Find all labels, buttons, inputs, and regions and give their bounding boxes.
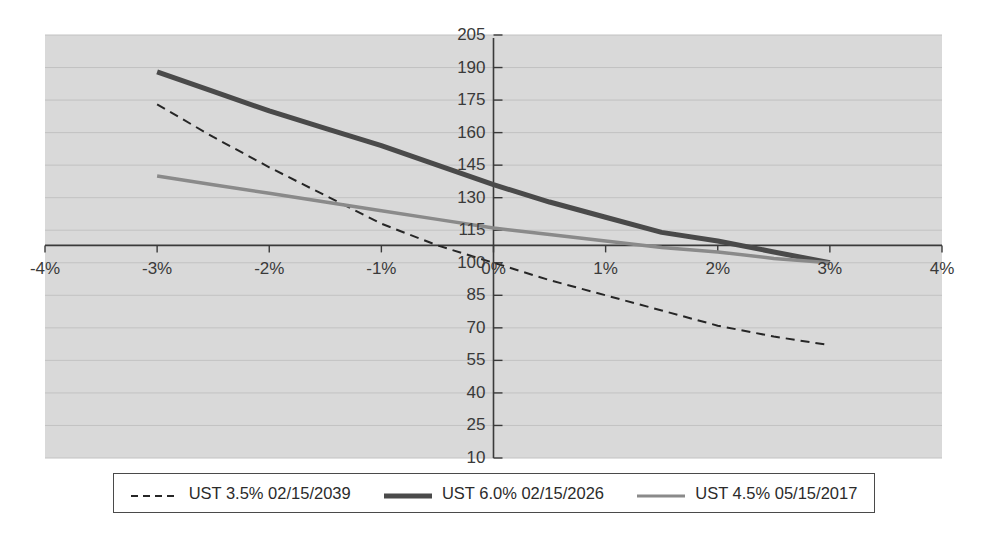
y-tick-label: 190 <box>432 59 486 76</box>
axes-group <box>45 35 942 458</box>
y-tick-label: 160 <box>432 124 486 141</box>
x-tick-label: 2% <box>688 260 748 277</box>
y-tick-label: 70 <box>432 319 486 336</box>
x-tick-label: 4% <box>912 260 972 277</box>
y-tick-label: 25 <box>432 416 486 433</box>
legend-item[interactable]: UST 4.5% 05/15/2017 <box>637 484 857 503</box>
x-tick-label: 3% <box>800 260 860 277</box>
x-tick-label: -4% <box>15 260 75 277</box>
y-tick-label: 10 <box>432 449 486 466</box>
y-tick-label: 85 <box>432 286 486 303</box>
legend-item[interactable]: UST 6.0% 02/15/2026 <box>384 484 604 503</box>
legend-label: UST 6.0% 02/15/2026 <box>442 484 604 503</box>
y-tick-label: 205 <box>432 26 486 43</box>
x-tick-label: 0% <box>464 260 524 277</box>
y-tick-label: 55 <box>432 351 486 368</box>
x-tick-label: 1% <box>576 260 636 277</box>
x-tick-label: -2% <box>239 260 299 277</box>
y-tick-label: 40 <box>432 384 486 401</box>
legend-label: UST 4.5% 05/15/2017 <box>695 484 857 503</box>
legend-item[interactable]: UST 3.5% 02/15/2039 <box>131 484 351 503</box>
chart-container: 205190175160145130115100857055402510 -4%… <box>0 0 987 534</box>
thick-solid-line-swatch <box>384 487 432 499</box>
x-tick-label: -3% <box>127 260 187 277</box>
chart-legend: UST 3.5% 02/15/2039 UST 6.0% 02/15/2026 … <box>113 473 875 513</box>
x-tick-label: -1% <box>351 260 411 277</box>
y-tick-label: 145 <box>432 156 486 173</box>
y-tick-label: 115 <box>432 221 486 238</box>
y-tick-label: 130 <box>432 189 486 206</box>
dashed-line-swatch <box>131 487 179 499</box>
y-tick-label: 175 <box>432 91 486 108</box>
thin-solid-line-swatch <box>637 487 685 499</box>
legend-label: UST 3.5% 02/15/2039 <box>189 484 351 503</box>
